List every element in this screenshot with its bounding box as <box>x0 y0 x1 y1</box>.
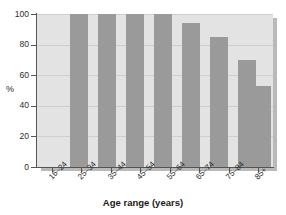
bar-65-74 <box>210 37 228 167</box>
bar-85-plus <box>253 86 271 167</box>
y-tick-label-40: 40 <box>0 101 29 110</box>
plot-area <box>37 14 273 167</box>
bar-25-34 <box>98 14 116 167</box>
y-axis-title: % <box>6 84 14 94</box>
y-tick-label-100: 100 <box>0 10 29 19</box>
y-axis-line <box>36 13 37 168</box>
y-tick-40 <box>31 106 36 107</box>
y-tick-label-0: 0 <box>0 163 29 172</box>
y-tick-20 <box>31 136 36 137</box>
bar-55-64 <box>182 23 200 167</box>
bar-35-44 <box>126 14 144 167</box>
y-tick-0 <box>31 167 36 168</box>
y-tick-100 <box>31 14 36 15</box>
y-tick-label-80: 80 <box>0 40 29 49</box>
y-tick-label-20: 20 <box>0 132 29 141</box>
bar-16-24 <box>70 14 88 167</box>
y-tick-80 <box>31 45 36 46</box>
x-axis-title: Age range (years) <box>0 197 286 208</box>
y-tick-60 <box>31 75 36 76</box>
bar-chart-figure: 020406080100 16–2425–3435–4445–5455–6465… <box>0 0 286 215</box>
y-tick-label-60: 60 <box>0 71 29 80</box>
bar-45-54 <box>154 14 172 167</box>
